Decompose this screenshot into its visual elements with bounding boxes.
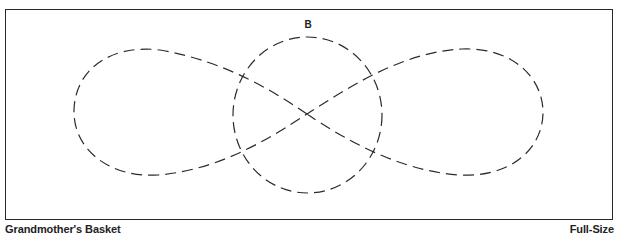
- quilting-pattern: B: [0, 0, 622, 238]
- figure-eight-loop: [74, 49, 543, 175]
- pattern-name: Grandmother's Basket: [5, 222, 121, 236]
- scale-label: Full-Size: [570, 222, 614, 236]
- shape-label-b: B: [304, 19, 311, 30]
